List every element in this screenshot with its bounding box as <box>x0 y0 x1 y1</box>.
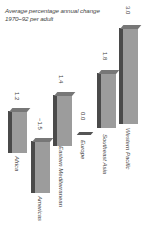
category-label-americas: Americas <box>37 196 43 221</box>
value-label-africa: 1.2 <box>14 92 20 100</box>
category-label-western-pacific: Western Pacific <box>125 128 131 170</box>
chart-title: Average percentage annual change 1970–92… <box>5 7 100 22</box>
bar-americas <box>31 138 50 193</box>
value-label-europe: 0.0 <box>80 112 86 120</box>
chart-title-line-2: 1970–92 per adult <box>5 15 100 23</box>
value-label-southeast-asia: 1.8 <box>102 52 108 60</box>
category-label-africa: Africa <box>14 156 20 171</box>
value-label-eastern-mediterranean: 1.4 <box>58 75 64 83</box>
category-label-eastern-mediterranean: Eastern Mediterranean <box>58 146 64 207</box>
bar-southeast-asia <box>97 70 116 128</box>
bar-western-pacific <box>119 25 138 124</box>
chart-title-line-1: Average percentage annual change <box>5 7 100 15</box>
value-label-americas: −1.5 <box>37 118 43 130</box>
bar-europe <box>77 132 94 135</box>
category-label-southeast-asia: Southeast Asia <box>102 134 108 174</box>
bar-eastern-mediterranean <box>53 92 72 146</box>
value-label-western-pacific: 3.0 <box>125 6 131 14</box>
bar-africa <box>8 108 27 153</box>
category-label-europe: Europe <box>80 140 86 159</box>
